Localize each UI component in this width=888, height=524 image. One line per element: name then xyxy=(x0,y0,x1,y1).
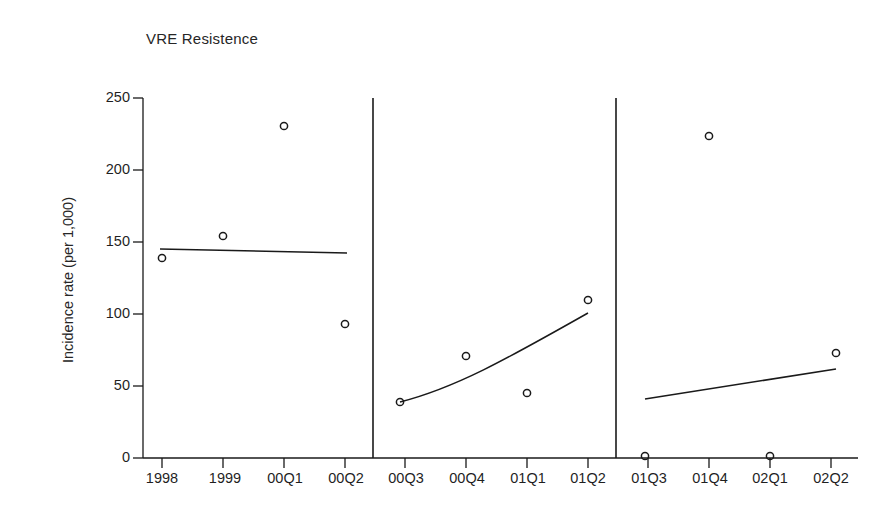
plot-area xyxy=(0,0,888,524)
data-point-00Q4 xyxy=(462,352,469,359)
data-point-01Q1 xyxy=(523,389,530,396)
fit-line-segment-2 xyxy=(400,313,588,402)
data-point-00Q1 xyxy=(280,122,287,129)
data-point-00Q2 xyxy=(341,320,348,327)
data-point-01Q4 xyxy=(705,132,712,139)
chart-container: VRE Resistence Incidence rate (per 1,000… xyxy=(0,0,888,524)
x-axis-ticks xyxy=(162,458,831,468)
fit-line-segment-1 xyxy=(160,249,347,253)
y-axis-ticks xyxy=(133,98,143,458)
data-point-1999 xyxy=(219,232,226,239)
data-point-1998 xyxy=(158,254,165,261)
data-point-02Q2 xyxy=(832,349,839,356)
fit-line-segment-3 xyxy=(645,369,836,399)
data-point-01Q2 xyxy=(584,296,591,303)
data-point-markers xyxy=(158,122,839,459)
